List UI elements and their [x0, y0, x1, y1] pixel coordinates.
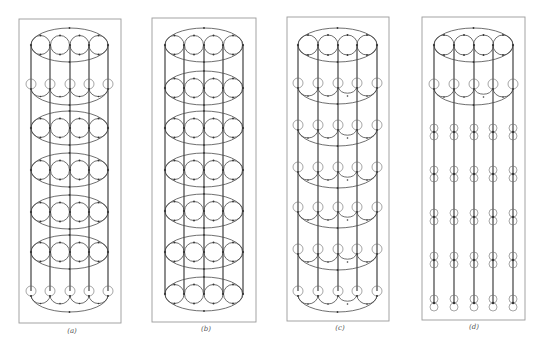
panel-caption: (b)	[201, 325, 211, 333]
panel-d: (d)	[422, 17, 525, 331]
cylinder-lattice-figure: (a)(b)(c)(d)	[0, 0, 545, 348]
panel-caption: (a)	[67, 327, 77, 335]
panel-a: (a)	[19, 19, 121, 335]
panel-caption: (d)	[469, 323, 479, 331]
panel-c: (c)	[287, 17, 389, 332]
panel-b: (b)	[152, 18, 256, 333]
panel-caption: (c)	[335, 324, 345, 332]
